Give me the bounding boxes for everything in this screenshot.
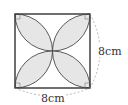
geometry-figure: 8cm 8cm bbox=[0, 0, 128, 105]
petal-bottom-right bbox=[53, 51, 91, 88]
petal-top-left bbox=[15, 14, 53, 51]
side-length-label-bottom: 8cm bbox=[41, 92, 65, 105]
petal-top-right bbox=[53, 14, 91, 51]
petals bbox=[15, 14, 90, 88]
petal-bottom-left bbox=[15, 51, 53, 88]
side-length-label-right: 8cm bbox=[98, 45, 122, 58]
